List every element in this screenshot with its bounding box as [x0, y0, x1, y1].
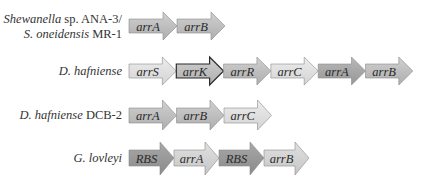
- gene-label: arrS: [137, 65, 160, 79]
- gene-label: arrB: [372, 65, 396, 79]
- gene-label: arrA: [180, 152, 204, 166]
- gene-arrow-arrR: arrR: [224, 57, 271, 85]
- gene-label: arrK: [183, 65, 208, 79]
- gene-arrow-arrA: arrA: [174, 142, 219, 175]
- gene-label: arrC: [231, 109, 256, 123]
- gene-label: arrA: [136, 109, 160, 123]
- gene-arrow-arrB: arrB: [264, 142, 309, 175]
- gene-arrow-RBS: RBS: [219, 142, 264, 175]
- gene-arrow-arrC: arrC: [271, 57, 318, 85]
- gene-arrow-arrB: arrB: [177, 100, 225, 130]
- gene-arrows: arrAarrBarrSarrKarrRarrCarrAarrBarrAarrB…: [129, 12, 413, 175]
- gene-label: arrB: [270, 152, 294, 166]
- gene-arrow-arrA: arrA: [318, 57, 365, 85]
- gene-label: arrB: [183, 109, 207, 123]
- gene-label: arrR: [230, 65, 254, 79]
- gene-arrow-RBS: RBS: [129, 142, 174, 175]
- gene-label: RBS: [135, 152, 158, 166]
- gene-arrow-arrB: arrB: [366, 57, 413, 85]
- gene-label: arrA: [136, 20, 160, 34]
- gene-arrow-arrA: arrA: [129, 100, 177, 130]
- gene-label: arrA: [325, 65, 349, 79]
- gene-label: arrB: [184, 20, 208, 34]
- gene-arrow-arrS: arrS: [129, 57, 176, 85]
- gene-label: arrC: [277, 65, 302, 79]
- gene-arrow-arrC: arrC: [224, 100, 272, 130]
- gene-arrows-canvas: arrAarrBarrSarrKarrRarrCarrAarrBarrAarrB…: [0, 0, 436, 183]
- gene-arrow-arrB: arrB: [177, 12, 225, 40]
- gene-arrow-arrK: arrK: [176, 57, 223, 85]
- gene-arrow-arrA: arrA: [129, 12, 177, 40]
- gene-label: RBS: [225, 152, 248, 166]
